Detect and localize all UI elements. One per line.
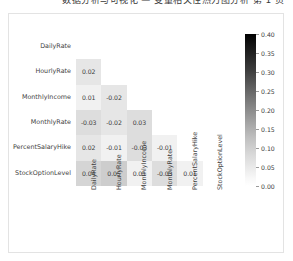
colorbar-tick-label: 0.15 <box>261 126 275 133</box>
heatmap-row-label: StockOptionLevel <box>15 161 71 186</box>
heatmap-cell: 0.02 <box>76 135 101 160</box>
heatmap-row-label: MonthlyRate <box>31 110 71 135</box>
top-caption-strip: 数据分析与可视化 — 变量相关性热力图分析 第 1 页 <box>0 0 293 9</box>
heatmap-cell: -0.02 <box>101 110 126 135</box>
colorbar-tick <box>256 186 259 187</box>
heatmap-cell <box>76 34 101 59</box>
colorbar-tick <box>256 53 259 54</box>
heatmap-column-label: HourlyRate <box>101 186 126 211</box>
heatmap-column-label: PercentSalaryHike <box>177 186 202 211</box>
heatmap-column-label: StockOptionLevel <box>203 186 228 211</box>
heatmap-column-label: DailyRate <box>76 186 101 211</box>
heatmap-row-label: PercentSalaryHike <box>13 135 71 160</box>
heatmap-axes: 0.020.01-0.02-0.03-0.020.030.02-0.01-0.0… <box>76 34 228 186</box>
colorbar-tick-label: 0.30 <box>261 69 275 76</box>
heatmap-column-label-text: MonthlyRate <box>166 150 174 190</box>
heatmap-cell-value: 0.02 <box>82 68 95 75</box>
heatmap-cell-value: 0.03 <box>133 119 146 126</box>
colorbar-tick <box>256 91 259 92</box>
colorbar-tick <box>256 129 259 130</box>
heatmap-cell-value: 0.01 <box>82 94 95 101</box>
heatmap-cell: -0.02 <box>101 85 126 110</box>
colorbar-tick-label: 0.35 <box>261 50 275 57</box>
colorbar-tick-label: 0.05 <box>261 164 275 171</box>
heatmap-cell-value: -0.01 <box>106 144 122 151</box>
heatmap-row-label: DailyRate <box>40 34 71 59</box>
colorbar: 0.400.350.300.250.200.150.100.050.00 <box>245 34 256 186</box>
top-caption-text: 数据分析与可视化 — 变量相关性热力图分析 第 1 页 <box>62 0 285 6</box>
heatmap-column-label: MonthlyIncome <box>127 186 152 211</box>
heatmap-column-label-text: PercentSalaryHike <box>191 132 199 190</box>
heatmap-cell-value: -0.03 <box>81 119 97 126</box>
colorbar-tick-label: 0.20 <box>261 107 275 114</box>
heatmap-cell: 0.03 <box>127 110 152 135</box>
chart-figure: 0.020.01-0.02-0.03-0.020.030.02-0.01-0.0… <box>8 13 284 253</box>
heatmap-row-label: MonthlyIncome <box>22 85 71 110</box>
heatmap-column-label-text: DailyRate <box>90 159 98 190</box>
heatmap-cell-value: 0.02 <box>82 144 95 151</box>
colorbar-tick-label: 0.40 <box>261 31 275 38</box>
colorbar-tick <box>256 110 259 111</box>
colorbar-tick-label: 0.10 <box>261 145 275 152</box>
heatmap-cell-value: -0.02 <box>106 94 122 101</box>
heatmap-column-label-text: StockOptionLevel <box>216 134 224 190</box>
colorbar-tick <box>256 148 259 149</box>
colorbar-tick-label: 0.25 <box>261 88 275 95</box>
colorbar-gradient <box>245 34 256 186</box>
heatmap-cell: 0.02 <box>76 59 101 84</box>
colorbar-tick <box>256 34 259 35</box>
colorbar-tick <box>256 72 259 73</box>
colorbar-tick-label: 0.00 <box>261 183 275 190</box>
heatmap-cell: 0.01 <box>76 85 101 110</box>
colorbar-tick <box>256 167 259 168</box>
heatmap-column-label-text: HourlyRate <box>115 154 123 190</box>
heatmap-cell: -0.03 <box>76 110 101 135</box>
heatmap-column-label: MonthlyRate <box>152 186 177 211</box>
heatmap-row-label: HourlyRate <box>35 59 71 84</box>
heatmap-cell-value: -0.02 <box>106 119 122 126</box>
heatmap-column-label-text: MonthlyIncome <box>140 141 148 190</box>
